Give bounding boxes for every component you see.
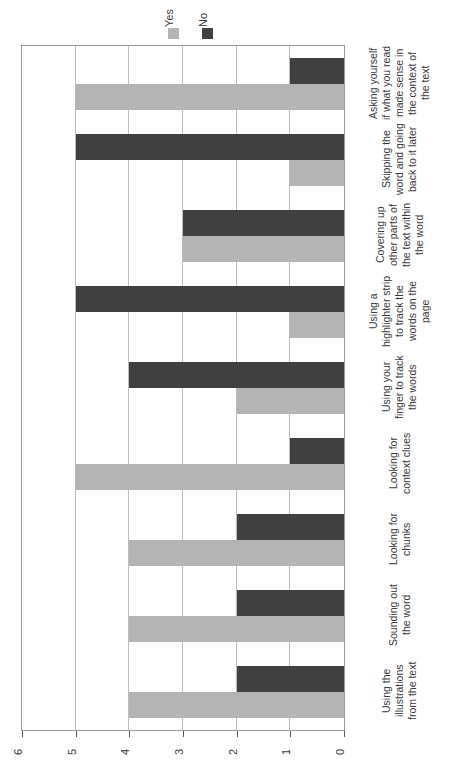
bar-yes	[237, 388, 344, 414]
category-label: Asking yourself if what you read made se…	[347, 45, 452, 121]
bar-group	[22, 274, 344, 350]
category-label: Sounding out the word	[347, 577, 452, 653]
plot-area	[21, 45, 345, 731]
bar-yes	[76, 464, 344, 490]
bar-group	[22, 578, 344, 654]
x-tick-label-6: 6	[12, 739, 32, 765]
bar-no	[76, 286, 344, 312]
bar-no	[129, 362, 344, 388]
x-tick-1	[290, 731, 291, 737]
bar-group	[22, 426, 344, 502]
legend-label-yes: Yes	[156, 1, 190, 27]
category-axis-labels: Asking yourself if what you read made se…	[347, 45, 452, 731]
x-tick-label-0: 0	[334, 739, 354, 765]
bar-chart: Yes No 6543210 Asking yourself if what y…	[0, 0, 452, 765]
bar-no	[290, 438, 344, 464]
x-tick-0	[344, 731, 345, 737]
bar-no	[183, 210, 344, 236]
bar-yes	[76, 84, 344, 110]
category-label: Using a highlighter strip to track the w…	[347, 273, 452, 349]
x-tick-3	[183, 731, 184, 737]
bar-no	[76, 134, 344, 160]
x-tick-label-5: 5	[66, 739, 86, 765]
bar-no	[237, 514, 344, 540]
legend-item-no[interactable]: No	[194, 4, 228, 44]
x-tick-label-4: 4	[119, 739, 139, 765]
bar-group	[22, 350, 344, 426]
category-label: Skipping the word and going back to it l…	[347, 121, 452, 197]
bar-group	[22, 654, 344, 730]
bar-group	[22, 502, 344, 578]
bar-group	[22, 198, 344, 274]
legend-item-yes[interactable]: Yes	[160, 4, 194, 44]
x-tick-label-2: 2	[227, 739, 247, 765]
bar-group	[22, 46, 344, 122]
category-label: Looking for chunks	[347, 501, 452, 577]
x-tick-4	[129, 731, 130, 737]
legend-swatch-yes	[168, 28, 179, 39]
legend-swatch-no	[202, 28, 213, 39]
bar-yes	[290, 312, 344, 338]
bar-yes	[129, 616, 344, 642]
bar-no	[290, 58, 344, 84]
x-tick-label-1: 1	[280, 739, 300, 765]
category-label: Covering up other parts of the text with…	[347, 197, 452, 273]
chart-legend: Yes No	[160, 4, 230, 44]
x-tick-2	[237, 731, 238, 737]
bar-yes	[290, 160, 344, 186]
x-tick-5	[76, 731, 77, 737]
x-tick-label-3: 3	[173, 739, 193, 765]
category-label: Looking for context clues	[347, 425, 452, 501]
bar-yes	[183, 236, 344, 262]
x-axis: 6543210	[21, 731, 345, 741]
bar-no	[237, 590, 344, 616]
category-label: Using your finger to track the words	[347, 349, 452, 425]
bar-group	[22, 122, 344, 198]
bar-no	[237, 666, 344, 692]
bar-yes	[129, 692, 344, 718]
x-tick-6	[22, 731, 23, 737]
category-label: Using the illustrations from the text	[347, 653, 452, 729]
bar-yes	[129, 540, 344, 566]
legend-label-no: No	[190, 1, 224, 27]
